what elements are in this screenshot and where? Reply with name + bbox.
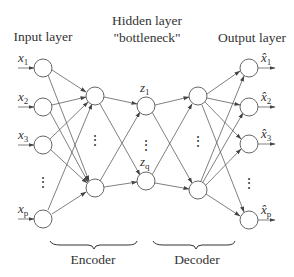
- encoder-edges-2: [100, 97, 140, 187]
- input-label-2: x2: [17, 89, 28, 106]
- output-layer-title: Output layer: [218, 30, 286, 45]
- input-node-1: [34, 59, 52, 77]
- input-layer-title: Input layer: [14, 29, 73, 44]
- encoder-node-top: [86, 87, 104, 105]
- input-label-1: x1: [17, 50, 28, 67]
- encoder-node-bottom: [86, 179, 104, 197]
- output-label-3: x̂3: [260, 126, 272, 143]
- autoencoder-diagram: Input layer Hidden layer "bottleneck" Ou…: [0, 0, 294, 277]
- output-node-3: [240, 135, 258, 153]
- hidden-layer-title: Hidden layer: [112, 13, 183, 28]
- bottleneck-label-1: z1: [139, 80, 150, 97]
- encoder-ellipsis: ⋮: [88, 133, 102, 148]
- decoder-node-bottom: [189, 181, 207, 199]
- output-ellipsis: ⋮: [242, 176, 256, 191]
- input-label-3: x3: [17, 127, 29, 144]
- encoder-edges-1: [48, 70, 92, 214]
- encoder-label: Encoder: [71, 252, 116, 267]
- decoder-edges-2: [201, 71, 244, 216]
- input-label-p: xp: [17, 201, 29, 218]
- output-layer: x̂1 x̂2 x̂3 x̂p ⋮: [240, 50, 272, 229]
- bottleneck-layer: z1 zq ⋮: [137, 80, 155, 190]
- decoder-node-top: [189, 87, 207, 105]
- output-node-2: [240, 98, 258, 116]
- bottleneck-title: "bottleneck": [113, 30, 180, 45]
- input-node-p: [34, 210, 52, 228]
- decoder-edges-1: [152, 97, 192, 189]
- output-label-p: x̂p: [260, 202, 272, 219]
- encoder-brace: [50, 241, 137, 249]
- input-layer: x1 x2 x3 xp ⋮: [17, 50, 52, 228]
- input-node-3: [34, 136, 52, 154]
- input-ellipsis: ⋮: [36, 175, 50, 190]
- output-node-1: [240, 59, 258, 77]
- decoder-label: Decoder: [174, 252, 220, 267]
- decoder-brace: [153, 241, 235, 249]
- bottleneck-node-1: [137, 97, 155, 115]
- input-node-2: [34, 98, 52, 116]
- bottleneck-ellipsis: ⋮: [139, 138, 153, 153]
- bottleneck-label-q: zq: [139, 154, 150, 171]
- output-label-2: x̂2: [260, 89, 271, 106]
- output-node-p: [240, 211, 258, 229]
- decoder-ellipsis: ⋮: [191, 134, 205, 149]
- output-label-1: x̂1: [260, 50, 271, 67]
- bottleneck-node-q: [137, 172, 155, 190]
